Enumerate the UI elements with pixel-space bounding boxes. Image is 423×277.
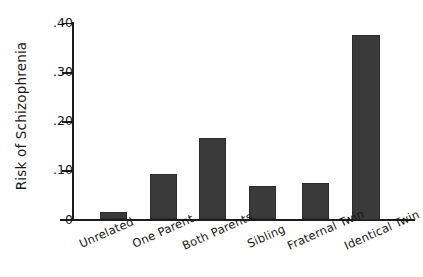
y-tick-label: .30	[37, 64, 73, 79]
y-tick-label: 0	[37, 212, 73, 227]
y-tick-label: .40	[37, 15, 73, 30]
bar-both-parents	[199, 138, 226, 220]
chart-figure: Risk of Schizophrenia .40.30.20.100 Unre…	[0, 0, 423, 277]
y-tick-label: .10	[37, 162, 73, 177]
bar-sibling	[249, 186, 276, 219]
bar-identical-twin	[352, 35, 380, 220]
bar-fraternal-twin	[302, 183, 329, 219]
y-tick-label: .20	[37, 113, 73, 128]
x-label-sibling: Sibling	[245, 222, 287, 251]
y-axis-title: Risk of Schizophrenia	[13, 16, 29, 216]
bar-one-parent	[150, 174, 177, 220]
